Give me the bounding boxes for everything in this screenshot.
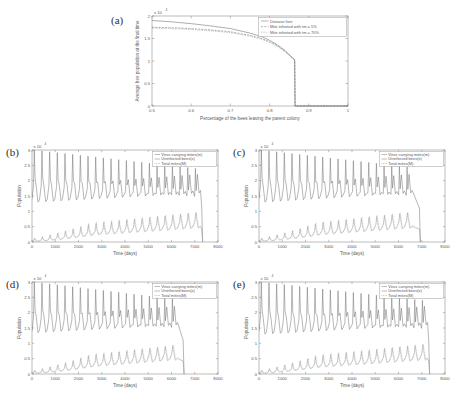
- panel-d-ylabel: Population: [17, 317, 22, 339]
- panel-d-ytick: 0.5: [24, 356, 30, 361]
- panel-c: (c) 01000200030004000500060007000800000.…: [229, 134, 451, 264]
- panel-e-plot: (e) 01000200030004000500060007000800000.…: [229, 266, 451, 399]
- panel-c-ytick: 2: [255, 178, 258, 183]
- panel-a-xtick: 0.7: [227, 108, 233, 113]
- panel-d-ytick: 3: [28, 280, 31, 285]
- panel-a-plot: (a) 0.50.60.70.80.9100.511.52x 104 Disea…: [108, 2, 353, 130]
- panel-a-ytick: 2: [148, 14, 151, 19]
- panel-a-exponent-sup: 4: [166, 8, 168, 12]
- panel-e-exponent: x 10: [261, 276, 270, 281]
- panel-a-ylabel: Average bee population at the final time: [135, 20, 140, 101]
- panel-e-ytick: 0.5: [251, 356, 257, 361]
- panel-a-ytick: 1.5: [144, 36, 150, 41]
- panel-c-series-uninfected-bees: [259, 213, 420, 242]
- panel-b-ytick: 3: [28, 148, 31, 153]
- panel-a-legend-item: Disease free: [270, 19, 293, 24]
- panel-b-ytick: 1.5: [24, 194, 30, 199]
- panel-c-xtick: 7000: [417, 244, 427, 249]
- panel-e-xtick: 7000: [417, 376, 427, 381]
- panel-c-exponent: x 10: [261, 144, 270, 149]
- panel-c-ytick: 2.5: [251, 163, 257, 168]
- panel-b-xtick: 4000: [120, 244, 130, 249]
- panel-a-series-dashed: [152, 27, 348, 106]
- panel-b: (b) 01000200030004000500060007000800000.…: [2, 134, 224, 264]
- panel-d-plot: (d) 01000200030004000500060007000800000.…: [2, 266, 224, 399]
- panel-e-exponent-sup: 4: [272, 274, 274, 278]
- panel-d-xtick: 4000: [120, 376, 130, 381]
- panel-c-plot: (c) 01000200030004000500060007000800000.…: [229, 134, 451, 264]
- panel-a-label: (a): [111, 14, 124, 27]
- panel-c-xtick: 5000: [371, 244, 381, 249]
- panel-e-xtick: 6000: [394, 376, 404, 381]
- panel-b-xtick: 3000: [97, 244, 107, 249]
- panel-c-exponent-sup: 4: [272, 142, 274, 146]
- panel-b-xlabel: Time (days): [113, 251, 138, 256]
- panel-a-ytick: 0.5: [144, 81, 150, 86]
- panel-d-exponent: x 10: [34, 276, 43, 281]
- panel-c-xtick: 0: [258, 244, 261, 249]
- panel-b-xtick: 8000: [213, 244, 223, 249]
- panel-d-label: (d): [6, 278, 19, 291]
- panel-b-plot: (b) 01000200030004000500060007000800000.…: [2, 134, 224, 264]
- panel-e-xlabel: Time (days): [340, 383, 365, 388]
- panel-d-xtick: 6000: [167, 376, 177, 381]
- panel-e-series-uninfected-bees: [259, 345, 430, 374]
- panel-d-xtick: 8000: [213, 376, 223, 381]
- panel-a-xtick: 0.9: [306, 108, 312, 113]
- panel-e-xtick: 5000: [371, 376, 381, 381]
- panel-d-series-uninfected-bees: [32, 346, 184, 374]
- panel-c-ytick: 3: [255, 148, 258, 153]
- panel-d-xtick: 1000: [51, 376, 61, 381]
- panel-d-xtick: 0: [31, 376, 34, 381]
- panel-e-xtick: 8000: [440, 376, 450, 381]
- panel-b-exponent: x 10: [34, 144, 43, 149]
- panel-b-xtick: 5000: [144, 244, 154, 249]
- panel-b-legend-item: Total mites(M): [161, 161, 187, 166]
- panel-c-series-total-mites: [259, 212, 420, 242]
- panel-d-ytick: 1.5: [24, 326, 30, 331]
- panel-c-ytick: 0.5: [251, 224, 257, 229]
- panel-e-ytick: 2: [255, 310, 258, 315]
- panel-e-legend-item: Total mites(M): [388, 293, 414, 298]
- panel-a-legend-item: Mite infested with tm = 70%: [270, 30, 319, 35]
- panel-a-xtick: 0.6: [188, 108, 194, 113]
- panel-c-ylabel: Population: [244, 185, 249, 207]
- panel-e-xtick: 2000: [301, 376, 311, 381]
- panel-b-xtick: 0: [31, 244, 34, 249]
- panel-e-ytick: 1.5: [251, 326, 257, 331]
- panel-a-xtick: 0.8: [267, 108, 273, 113]
- panel-d-xtick: 2000: [74, 376, 84, 381]
- panel-d-series-total-mites: [32, 345, 184, 374]
- panel-b-series-uninfected-bees: [32, 213, 203, 242]
- panel-c-xtick: 6000: [394, 244, 404, 249]
- panel-e-xtick: 3000: [324, 376, 334, 381]
- panel-b-series-total-mites: [32, 212, 203, 242]
- panel-e-ytick: 3: [255, 280, 258, 285]
- panel-e: (e) 01000200030004000500060007000800000.…: [229, 266, 451, 399]
- panel-a-xtick: 0.5: [149, 108, 155, 113]
- panel-e-label: (e): [233, 278, 246, 291]
- panel-d-xlabel: Time (days): [113, 383, 138, 388]
- panel-c-xtick: 4000: [347, 244, 357, 249]
- panel-a: (a) 0.50.60.70.80.9100.511.52x 104 Disea…: [108, 2, 353, 130]
- panel-e-ytick: 1: [255, 341, 258, 346]
- panel-c-label: (c): [233, 146, 246, 159]
- panel-c-xtick: 2000: [301, 244, 311, 249]
- panel-d-exponent-sup: 4: [45, 274, 47, 278]
- panel-c-xlabel: Time (days): [340, 251, 365, 256]
- panel-a-ytick: 1: [148, 59, 151, 64]
- panel-b-ytick: 2.5: [24, 163, 30, 168]
- panel-c-xtick: 8000: [440, 244, 450, 249]
- panel-d-ytick: 1: [28, 341, 31, 346]
- panel-a-exponent: x 10: [154, 10, 163, 15]
- panel-b-xtick: 7000: [190, 244, 200, 249]
- panel-a-series-dotted: [152, 28, 348, 106]
- panel-b-ytick: 2: [28, 178, 31, 183]
- panel-d-legend-item: Total mites(M): [161, 293, 187, 298]
- panel-c-legend-item: Total mites(M): [388, 161, 414, 166]
- panel-c-ytick: 1.5: [251, 194, 257, 199]
- panel-a-xtick: 1: [347, 108, 350, 113]
- panel-c-ytick: 1: [255, 209, 258, 214]
- panel-e-ytick: 2.5: [251, 295, 257, 300]
- panel-b-xtick: 1000: [51, 244, 61, 249]
